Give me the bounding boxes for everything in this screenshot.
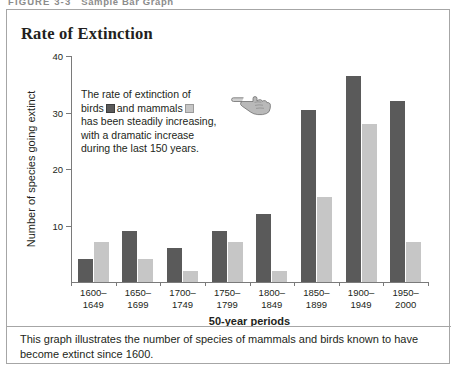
x-tick-mark-5 — [294, 282, 295, 286]
x-tick-mark-2 — [160, 282, 161, 286]
annotation-line-5: during the last 150 years. — [81, 142, 199, 154]
y-tick-label-20: 20 — [52, 164, 63, 175]
x-tick-label-line: 1950– — [392, 287, 418, 298]
bar-birds-1600–1649 — [78, 259, 93, 282]
annotation-line-2-mid: and mammals — [117, 102, 183, 114]
x-tick-label-1750–1799: 1750–1799 — [205, 287, 250, 310]
x-tick-mark-3 — [205, 282, 206, 286]
x-tick-label-1650–1699: 1650–1699 — [116, 287, 161, 310]
x-tick-label-line: 2000 — [395, 299, 416, 310]
x-tick-label-line: 1849 — [261, 299, 282, 310]
x-tick-label-line: 1649 — [83, 299, 104, 310]
x-tick-label-line: 1750– — [214, 287, 240, 298]
figure-number: FIGURE 3-3 — [8, 0, 71, 7]
caption-divider — [7, 326, 451, 327]
bar-birds-1800–1849 — [256, 214, 271, 282]
legend-swatch-mammals — [185, 104, 194, 113]
bar-mammals-1850–1899 — [317, 197, 332, 282]
x-tick-label-line: 1650– — [125, 287, 151, 298]
annotation-line-1: The rate of extinction of — [81, 88, 191, 100]
x-tick-label-line: 1749 — [172, 299, 193, 310]
bar-birds-1650–1699 — [122, 231, 137, 282]
figure-title: Sample Bar Graph — [81, 0, 174, 7]
y-axis-line — [71, 56, 72, 282]
figure-caption: FIGURE 3-3Sample Bar Graph — [8, 0, 174, 7]
x-tick-label-line: 1800– — [259, 287, 285, 298]
bar-mammals-1900–1949 — [362, 124, 377, 282]
bar-birds-1900–1949 — [346, 76, 361, 282]
x-tick-label-line: 1899 — [306, 299, 327, 310]
x-tick-mark-end — [428, 282, 429, 286]
x-tick-mark-4 — [250, 282, 251, 286]
y-tick-label-40: 40 — [52, 51, 63, 62]
bottom-caption: This graph illustrates the number of spe… — [20, 332, 438, 361]
x-tick-label-line: 1700– — [169, 287, 195, 298]
x-tick-mark-7 — [383, 282, 384, 286]
x-tick-label-line: 1699 — [127, 299, 148, 310]
x-tick-label-line: 1850– — [303, 287, 329, 298]
x-tick-label-1850–1899: 1850–1899 — [294, 287, 339, 310]
x-tick-label-1700–1749: 1700–1749 — [160, 287, 205, 310]
y-axis-title: Number of species going extinct — [25, 91, 37, 248]
x-tick-label-1900–1949: 1900–1949 — [339, 287, 384, 310]
y-tick-label-30: 30 — [52, 107, 63, 118]
annotation-line-3: has been steadily increasing, — [81, 115, 216, 127]
bar-birds-1750–1799 — [212, 231, 227, 282]
chart-annotation: The rate of extinction of birdsand mamma… — [81, 88, 229, 156]
x-tick-mark-6 — [339, 282, 340, 286]
chart-title: Rate of Extinction — [21, 24, 153, 44]
figure-panel: Rate of Extinction Number of species goi… — [6, 9, 450, 364]
y-tick-10: 10 — [66, 226, 71, 227]
bar-mammals-1600–1649 — [94, 242, 109, 282]
x-tick-mark-1 — [116, 282, 117, 286]
bar-birds-1950–2000 — [390, 101, 405, 282]
x-tick-label-1950–2000: 1950–2000 — [383, 287, 428, 310]
figure-page: FIGURE 3-3Sample Bar Graph Rate of Extin… — [0, 0, 456, 369]
x-tick-label-line: 1799 — [217, 299, 238, 310]
x-tick-label-line: 1900– — [348, 287, 374, 298]
bar-birds-1700–1749 — [167, 248, 182, 282]
bar-mammals-1700–1749 — [183, 271, 198, 282]
annotation-line-2-pre: birds — [81, 102, 104, 114]
bar-mammals-1800–1849 — [272, 271, 287, 282]
x-tick-label-line: 1949 — [350, 299, 371, 310]
y-tick-40: 40 — [66, 56, 71, 57]
bar-birds-1850–1899 — [301, 110, 316, 282]
y-tick-label-10: 10 — [52, 220, 63, 231]
pointing-hand-icon — [229, 90, 273, 116]
x-tick-label-1600–1649: 1600–1649 — [71, 287, 116, 310]
y-tick-20: 20 — [66, 169, 71, 170]
annotation-line-4: with a dramatic increase — [81, 129, 194, 141]
bar-mammals-1650–1699 — [138, 259, 153, 282]
legend-swatch-birds — [106, 104, 115, 113]
x-tick-mark-0 — [71, 282, 72, 286]
x-tick-label-line: 1600– — [80, 287, 106, 298]
bar-mammals-1950–2000 — [406, 242, 421, 282]
x-tick-label-1800–1849: 1800–1849 — [250, 287, 295, 310]
y-tick-30: 30 — [66, 113, 71, 114]
bar-mammals-1750–1799 — [228, 242, 243, 282]
